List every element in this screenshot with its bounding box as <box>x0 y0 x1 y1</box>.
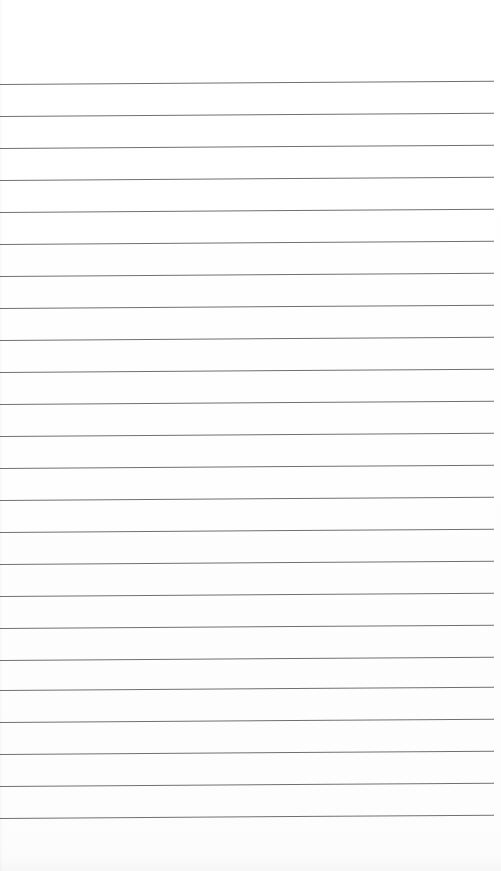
rule-line <box>0 529 494 533</box>
ruled-lines-layer <box>0 0 501 871</box>
rule-line <box>0 305 494 309</box>
rule-line <box>0 113 494 117</box>
rule-line <box>0 241 494 245</box>
rule-line <box>0 145 494 149</box>
rule-line <box>0 815 494 819</box>
rule-line <box>0 687 494 691</box>
rule-line <box>0 369 494 373</box>
rule-line <box>0 497 494 501</box>
rule-line <box>0 273 494 277</box>
rule-line <box>0 561 494 565</box>
rule-line <box>0 401 494 405</box>
scanned-page <box>0 0 501 871</box>
rule-line <box>0 783 494 787</box>
rule-line <box>0 209 494 213</box>
rule-line <box>0 177 494 181</box>
rule-line <box>0 337 494 341</box>
rule-line <box>0 593 494 597</box>
rule-line <box>0 433 494 437</box>
rule-line <box>0 751 494 755</box>
rule-line <box>0 465 494 469</box>
rule-line <box>0 719 494 723</box>
rule-line <box>0 657 494 661</box>
rule-line <box>0 81 494 85</box>
rule-line <box>0 625 494 629</box>
